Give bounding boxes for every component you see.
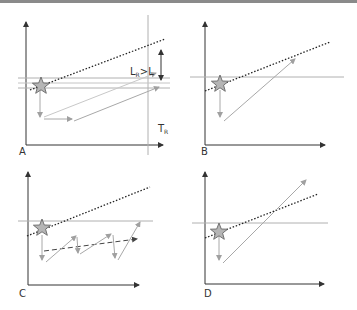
panel-label-b: B [201, 146, 208, 157]
panel-c: C [18, 172, 153, 299]
dashed-mean-arrow [44, 239, 137, 251]
lr-label: LR>L [130, 66, 154, 78]
panel-a: LR>L TR A [18, 15, 170, 157]
diagram-canvas: LR>L TR A B C [0, 0, 357, 310]
panel-label-a: A [19, 146, 26, 157]
drop-arrow-3 [113, 235, 115, 258]
rise-arrow-3 [118, 222, 140, 260]
rise-arrow [224, 59, 295, 121]
star-icon [32, 77, 49, 93]
rise-arrow-1 [46, 236, 76, 262]
panel-d: D [192, 172, 328, 299]
rise-arrow-lower [74, 87, 159, 121]
panel-label-c: C [19, 288, 26, 299]
panel-b: B [190, 22, 344, 157]
tr-label: TR [157, 123, 168, 135]
rise-arrow [223, 180, 306, 263]
drop-arrow-2 [77, 237, 78, 253]
panel-label-d: D [204, 288, 212, 299]
rise-arrow-2 [80, 234, 111, 254]
dotted-trend-line [30, 39, 165, 90]
